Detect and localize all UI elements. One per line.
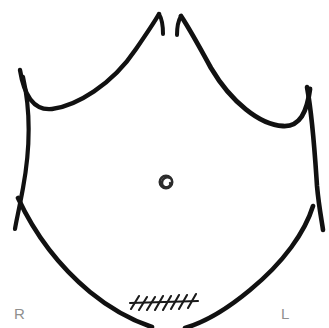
xiphoid-peak-right-path <box>159 14 163 34</box>
orientation-label-left: L <box>281 306 290 321</box>
umbilicus-icon <box>160 176 172 188</box>
incision-line <box>130 301 198 303</box>
costal-margin-right-path <box>20 14 159 109</box>
costal-margin-left-path <box>181 16 310 126</box>
abdomen-outline-svg <box>0 0 329 328</box>
xiphoid-peak-left-path <box>177 16 181 35</box>
hip-crease-left-path <box>185 206 313 328</box>
orientation-label-right: R <box>14 306 25 321</box>
abdomen-diagram: R L <box>0 0 329 328</box>
flank-left-path <box>307 87 323 230</box>
sutured-incision <box>130 294 198 310</box>
